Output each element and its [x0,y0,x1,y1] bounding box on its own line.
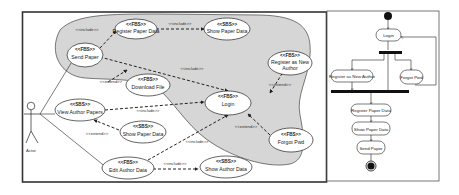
svg-text:<<FBS>>: <<FBS>> [75,47,95,52]
use-case-forgot-pwd[interactable]: <<FBS>> Forgot Pwd [269,128,313,152]
svg-text:<<FBS>>: <<FBS>> [138,77,158,82]
use-case-register-new-author[interactable]: <<FBS>> Register as New Author [268,51,312,75]
include-label: <<include>> [168,21,192,26]
use-case-show-author-data[interactable]: <<SBS>> Show Author Data [200,156,252,178]
svg-text:<<FBS>>: <<FBS>> [280,53,300,58]
svg-text:<<FBS>>: <<FBS>> [118,160,138,165]
svg-text:Forgot Pwd: Forgot Pwd [400,75,423,80]
svg-text:Show Paper Data: Show Paper Data [207,28,248,34]
join-bar [331,90,409,93]
svg-text:Edit Author Data: Edit Author Data [109,167,147,173]
actor-label: Actor [26,148,36,153]
svg-text:Show Paper Data: Show Paper Data [123,131,164,137]
use-case-view-author-papers[interactable]: <<SBS>> View Author Papers [55,99,105,121]
svg-text:Register Paper Data: Register Paper Data [351,108,391,113]
include-label: <<include>> [163,161,187,166]
activity-login[interactable]: Login [376,29,401,41]
include-label: <<include>> [136,108,160,113]
svg-text:Author: Author [282,65,298,71]
use-case-login[interactable]: <<FBS>> Login [205,91,251,115]
diagram-canvas: Actor <<include>> <<include>> <<include>… [0,0,459,195]
activity-register-new-author[interactable]: Register as New Author [329,70,376,82]
include-label: <<include>> [75,27,99,32]
activity-diagram: Login Register as New Author Forgot Pwd … [327,11,439,181]
activity-register-paper-data[interactable]: Register Paper Data [351,104,391,116]
activity-forgot-pwd[interactable]: Forgot Pwd [400,70,423,84]
svg-text:<<SBS>>: <<SBS>> [133,124,153,129]
actor-head-icon [27,102,35,110]
svg-text:Show Author Data: Show Author Data [205,166,247,172]
extend-label: <<extend>> [235,124,258,129]
extend-label: <<extend>> [86,131,109,136]
extend-label: <<extend>> [100,79,123,84]
use-case-show-paper-data-mid[interactable]: <<SBS>> Show Paper Data [120,121,166,143]
extend-label: <<extend>> [269,82,292,87]
activity-show-paper-data[interactable]: Show Paper Data [352,122,390,135]
fork-bar [379,51,402,54]
svg-text:<<FBS>>: <<FBS>> [281,132,301,137]
svg-text:Login: Login [222,101,235,107]
svg-text:Send Paper: Send Paper [71,54,99,60]
include-label: <<include>> [180,66,204,71]
use-case-send-paper[interactable]: <<FBS>> Send Paper [67,43,103,67]
svg-text:Send Paper: Send Paper [359,146,383,151]
include-label: <<include>> [185,139,209,144]
initial-node-icon [384,12,392,20]
use-case-show-paper-data-top[interactable]: <<SBS>> Show Paper Data [204,18,250,40]
use-case-download-file[interactable]: <<FBS>> Download File [126,74,170,96]
svg-text:View Author Papers: View Author Papers [57,109,103,115]
svg-text:Show Paper Data: Show Paper Data [354,127,389,132]
svg-text:Download File: Download File [132,84,165,90]
svg-text:<<SBS>>: <<SBS>> [217,22,237,27]
svg-text:<<FBS>>: <<FBS>> [126,22,146,27]
use-case-edit-author-data[interactable]: <<FBS>> Edit Author Data [102,157,154,179]
svg-text:Forgot Pwd: Forgot Pwd [278,139,305,145]
use-case-diagram: Actor <<include>> <<include>> <<include>… [23,12,327,182]
svg-text:Login: Login [383,33,394,38]
svg-text:<<SBS>>: <<SBS>> [216,159,236,164]
svg-text:Register as New Author: Register as New Author [329,74,376,79]
svg-text:<<SBS>>: <<SBS>> [70,102,90,107]
svg-text:<<FBS>>: <<FBS>> [218,94,238,99]
activity-send-paper[interactable]: Send Paper [357,141,385,154]
svg-text:Register Paper Data: Register Paper Data [113,28,160,34]
